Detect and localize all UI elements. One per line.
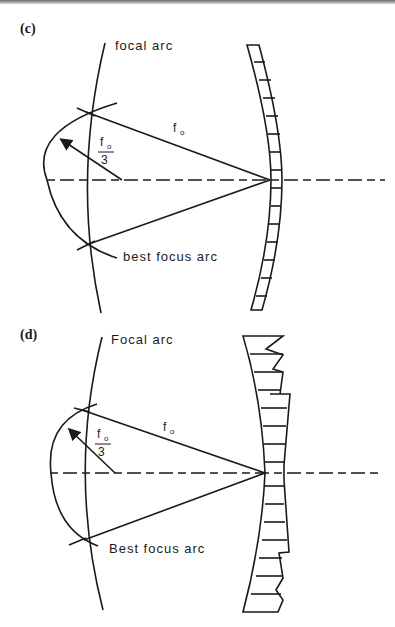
svg-text:o: o xyxy=(180,128,185,137)
focal-arc-label: focal arc xyxy=(115,38,173,53)
svg-text:3: 3 xyxy=(101,153,108,167)
focal-length-label: f o xyxy=(163,420,175,436)
panel-d: (d) Focal arc Best focus arc f o f o 3 xyxy=(20,327,383,612)
focal-arc xyxy=(87,43,105,313)
ray-bottom xyxy=(84,473,265,540)
diagram-canvas: (c) focal arc best focus arc f o f o 3 xyxy=(0,0,395,627)
ray-bottom xyxy=(86,180,270,245)
svg-text:o: o xyxy=(170,427,175,436)
intersection-tick xyxy=(69,538,86,545)
svg-text:3: 3 xyxy=(98,445,105,459)
stepped-mirror xyxy=(243,336,290,612)
best-focus-arc-label: Best focus arc xyxy=(109,541,205,556)
radius-arrow xyxy=(62,140,122,180)
svg-text:o: o xyxy=(107,142,112,151)
svg-text:o: o xyxy=(104,434,109,443)
ray-top xyxy=(86,112,270,180)
panel-label: (c) xyxy=(20,21,36,37)
best-focus-arc xyxy=(50,404,98,546)
svg-text:f: f xyxy=(173,121,177,135)
svg-text:f: f xyxy=(97,427,101,441)
radius-label: f o 3 xyxy=(95,427,111,459)
best-focus-arc-label: best focus arc xyxy=(123,249,218,264)
panel-label: (d) xyxy=(20,327,37,343)
radius-label: f o 3 xyxy=(98,135,114,167)
focal-length-label: f o xyxy=(173,121,185,137)
panel-c: (c) focal arc best focus arc f o f o 3 xyxy=(20,21,385,313)
svg-text:f: f xyxy=(163,420,167,434)
focal-arc-label: Focal arc xyxy=(111,332,173,347)
svg-text:f: f xyxy=(100,135,104,149)
ray-top xyxy=(82,410,265,473)
